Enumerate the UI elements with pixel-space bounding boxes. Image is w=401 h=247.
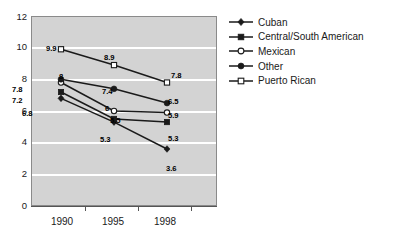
x-tick-3 <box>191 206 192 211</box>
data-value-label: 5.3 <box>100 136 111 144</box>
y-tick-0: 0 <box>22 201 27 211</box>
data-point-filled-diamond <box>164 146 170 153</box>
series-layer <box>31 16 217 206</box>
legend-label: Cuban <box>254 17 287 28</box>
data-value-label: 7.8 <box>12 86 23 94</box>
data-value-label: 7.4 <box>102 88 113 96</box>
data-value-label: 6.5 <box>168 98 179 106</box>
data-point-open-square <box>111 62 116 67</box>
data-value-label: 7.8 <box>171 72 182 80</box>
data-value-label: 8 <box>59 73 63 81</box>
data-value-label: 5.3 <box>168 135 179 143</box>
x-tick-1 <box>85 206 86 211</box>
data-value-label: 3.6 <box>166 165 177 173</box>
legend-item-other[interactable]: Other <box>228 59 398 74</box>
legend-item-puerto-rican[interactable]: Puerto Rican <box>228 73 398 88</box>
data-value-label: 8.9 <box>104 54 115 62</box>
y-tick-2: 2 <box>22 169 27 179</box>
legend-label: Puerto Rican <box>254 75 316 86</box>
data-point-filled-diamond <box>58 95 64 102</box>
data-value-label: 5.9 <box>168 112 179 120</box>
legend-item-mexican[interactable]: Mexican <box>228 44 398 59</box>
legend-label: Central/South American <box>254 31 364 42</box>
x-tick-label-1995: 1995 <box>102 216 124 227</box>
data-point-filled-square <box>164 119 169 124</box>
data-point-open-square <box>164 80 169 85</box>
data-value-label: 5.5 <box>110 117 121 125</box>
y-axis: 12 10 8 6 4 2 0 <box>0 0 31 247</box>
x-tick-label-1998: 1998 <box>154 216 176 227</box>
filled-square-icon <box>228 30 254 44</box>
data-point-filled-square <box>58 89 63 94</box>
open-square-icon <box>228 74 254 88</box>
x-tick-2 <box>138 206 139 211</box>
legend-item-central-south-american[interactable]: Central/South American <box>228 30 398 45</box>
legend-label: Mexican <box>254 46 295 57</box>
legend: Cuban Central/South American Mexican Oth… <box>228 15 398 88</box>
y-tick-4: 4 <box>22 137 27 147</box>
filled-circle-icon <box>228 59 254 73</box>
x-tick-label-1990: 1990 <box>51 216 73 227</box>
legend-label: Other <box>254 61 283 72</box>
open-circle-icon <box>228 44 254 58</box>
data-value-label: 6 <box>105 105 109 113</box>
data-point-open-square <box>58 47 63 52</box>
data-point-open-circle <box>111 108 116 113</box>
chart-figure: 12 10 8 6 4 2 0 1990 1995 1998 9.98.97.8… <box>0 0 401 247</box>
filled-diamond-icon <box>228 15 254 29</box>
y-tick-8: 8 <box>22 74 27 84</box>
data-value-label: 6.8 <box>22 110 33 118</box>
y-tick-10: 10 <box>16 43 27 53</box>
data-value-label: 7.2 <box>12 97 23 105</box>
x-axis-line <box>31 206 217 207</box>
data-value-label: 9.9 <box>46 45 57 53</box>
legend-item-cuban[interactable]: Cuban <box>228 15 398 30</box>
y-tick-12: 12 <box>16 12 27 22</box>
